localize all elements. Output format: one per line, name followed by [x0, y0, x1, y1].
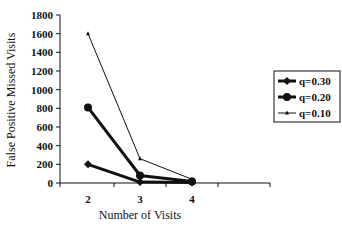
- y-tick-label: 1400: [31, 46, 54, 58]
- circle-marker: [84, 103, 92, 111]
- y-tick-label: 800: [37, 102, 54, 114]
- diamond-marker: [84, 160, 92, 168]
- y-tick-label: 1200: [31, 65, 54, 77]
- y-tick-label: 200: [37, 158, 54, 170]
- triangle-marker: [138, 156, 142, 160]
- triangle-marker: [86, 31, 90, 35]
- x-axis-title: Number of Visits: [99, 208, 182, 222]
- circle-marker: [283, 93, 291, 101]
- y-tick-label: 1800: [31, 9, 54, 21]
- circle-marker: [136, 172, 144, 180]
- legend-label: q=0.20: [299, 91, 331, 103]
- y-tick-label: 1600: [31, 28, 54, 40]
- x-tick-label: 2: [85, 193, 91, 205]
- y-tick-label: 400: [37, 140, 54, 152]
- legend-label: q=0.30: [299, 75, 331, 87]
- x-tick-label: 3: [137, 193, 143, 205]
- line-chart: 020040060080010001200140016001800234Numb…: [0, 0, 342, 226]
- y-axis-title: False Positive Missed Visits: [4, 32, 18, 167]
- y-tick-label: 0: [48, 177, 54, 189]
- y-tick-label: 1000: [31, 84, 54, 96]
- x-tick-label: 4: [189, 193, 195, 205]
- legend-label: q=0.10: [299, 107, 331, 119]
- y-tick-label: 600: [37, 121, 54, 133]
